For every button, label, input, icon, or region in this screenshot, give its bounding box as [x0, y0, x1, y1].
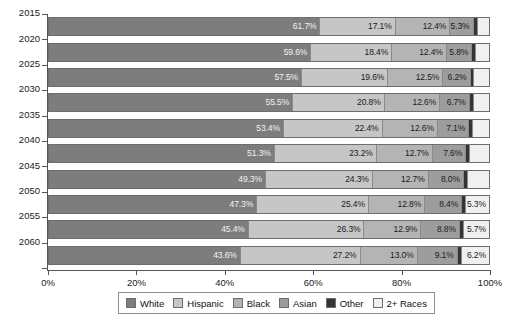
bar-segment-hispanic: 26.3% [249, 221, 365, 238]
stacked-bar-chart: 2015202020252030203520402045205020552060… [0, 0, 514, 321]
x-axis-tick [48, 270, 49, 275]
bar-segment-white: 55.5% [49, 94, 293, 111]
segment-value-label: 12.4% [419, 48, 446, 57]
segment-value-label: 12.8% [398, 200, 425, 209]
segment-value-label: 6.2% [448, 73, 470, 82]
segment-value-label: 12.7% [405, 149, 432, 158]
bar-segment-hispanic: 17.1% [320, 18, 395, 35]
x-axis-label-20%: 20% [127, 277, 146, 288]
bar-segment-white: 59.6% [49, 44, 311, 61]
legend-item-black[interactable]: Black [233, 298, 270, 309]
legend-item-asian[interactable]: Asian [279, 298, 317, 309]
bar-segment-black: 12.4% [396, 18, 451, 35]
segment-value-label: 8.0% [441, 175, 463, 184]
x-axis-tick [313, 270, 314, 275]
legend-swatch-icon [126, 298, 136, 308]
bar-segment-black: 12.5% [388, 69, 443, 86]
bar-segment-2-races: 5.7% [464, 221, 489, 238]
y-axis-label-2030: 2030 [2, 83, 40, 94]
bar-segment-hispanic: 22.4% [284, 120, 383, 137]
legend-label: White [140, 298, 164, 309]
segment-value-label: 24.3% [345, 175, 372, 184]
segment-value-label: 18.4% [365, 48, 392, 57]
bar-segment-hispanic: 25.4% [257, 196, 369, 213]
bar-segment-2-races [473, 120, 489, 137]
legend-swatch-icon [373, 298, 383, 308]
segment-value-label: 12.6% [413, 98, 440, 107]
bar-segment-hispanic: 18.4% [311, 44, 392, 61]
bar-segment-asian: 6.7% [440, 94, 469, 111]
bar-segment-2-races [470, 145, 489, 162]
legend-item-other[interactable]: Other [326, 298, 364, 309]
bar-segment-asian: 5.8% [447, 44, 473, 61]
x-axis-label-60%: 60% [304, 277, 323, 288]
segment-value-label: 61.7% [293, 22, 320, 31]
segment-value-label: 59.6% [284, 48, 311, 57]
segment-value-label: 19.6% [361, 73, 388, 82]
bar-segment-black: 12.6% [385, 94, 440, 111]
bar-segment-2-races [474, 69, 489, 86]
x-axis-tick [402, 270, 403, 275]
y-axis-label-2045: 2045 [2, 160, 40, 171]
segment-value-label: 49.3% [238, 175, 265, 184]
segment-value-label: 9.1% [435, 251, 457, 260]
bar-segment-white: 57.5% [49, 69, 302, 86]
segment-value-label: 57.5% [274, 73, 301, 82]
segment-value-label: 43.6% [213, 251, 240, 260]
bar-segment-2-races [468, 171, 489, 188]
bar-row: 49.3%24.3%12.7%8.0% [48, 170, 490, 189]
segment-value-label: 8.8% [437, 225, 459, 234]
segment-value-label: 6.7% [447, 98, 469, 107]
segment-value-label: 5.8% [449, 48, 471, 57]
bar-segment-asian: 8.0% [429, 171, 464, 188]
legend-label: Other [340, 298, 364, 309]
y-axis-label-2020: 2020 [2, 33, 40, 44]
bar-row: 51.3%23.2%12.7%7.6% [48, 144, 490, 163]
bar-segment-2-races [478, 18, 489, 35]
bar-row: 61.7%17.1%12.4%5.3% [48, 17, 490, 36]
segment-value-label: 45.4% [221, 225, 248, 234]
bar-segment-2-races [474, 94, 489, 111]
bar-segment-asian: 5.3% [450, 18, 473, 35]
bar-row: 47.3%25.4%12.8%8.4%5.3% [48, 195, 490, 214]
segment-value-label: 47.3% [230, 200, 257, 209]
legend-item-hispanic[interactable]: Hispanic [173, 298, 223, 309]
bar-segment-2-races: 5.3% [466, 196, 489, 213]
bar-row: 53.4%22.4%12.6%7.1% [48, 119, 490, 138]
x-axis-label-100%: 100% [478, 277, 502, 288]
legend-item-2-races[interactable]: 2+ Races [373, 298, 427, 309]
bar-row: 59.6%18.4%12.4%5.8% [48, 43, 490, 62]
bar-segment-2-races [476, 44, 489, 61]
legend-label: Asian [293, 298, 317, 309]
x-axis-tick [225, 270, 226, 275]
segment-value-label: 20.8% [357, 98, 384, 107]
bar-segment-2-races: 6.2% [462, 247, 489, 264]
bar-segment-black: 12.4% [392, 44, 447, 61]
y-axis-tick [42, 268, 48, 269]
bar-segment-white: 45.4% [49, 221, 249, 238]
bar-segment-black: 12.7% [377, 145, 433, 162]
bar-segment-black: 12.7% [373, 171, 429, 188]
segment-value-label: 51.3% [247, 149, 274, 158]
segment-value-label: 5.3% [467, 200, 489, 209]
segment-value-label: 13.0% [390, 251, 417, 260]
segment-value-label: 55.5% [266, 98, 293, 107]
legend-label: Black [247, 298, 270, 309]
bar-segment-asian: 7.1% [438, 120, 469, 137]
legend-swatch-icon [279, 298, 289, 308]
legend-swatch-icon [233, 298, 243, 308]
segment-value-label: 12.4% [423, 22, 450, 31]
segment-value-label: 8.4% [439, 200, 461, 209]
legend-label: Hispanic [187, 298, 223, 309]
bar-segment-white: 51.3% [49, 145, 275, 162]
segment-value-label: 17.1% [368, 22, 395, 31]
bar-segment-black: 12.6% [383, 120, 438, 137]
x-axis-label-0%: 0% [41, 277, 55, 288]
bar-segment-white: 47.3% [49, 196, 257, 213]
legend-item-white[interactable]: White [126, 298, 164, 309]
segment-value-label: 25.4% [341, 200, 368, 209]
legend-swatch-icon [173, 298, 183, 308]
chart-legend: WhiteHispanicBlackAsianOther2+ Races [118, 292, 435, 314]
segment-value-label: 6.2% [467, 251, 489, 260]
bar-segment-asian: 6.2% [443, 69, 470, 86]
